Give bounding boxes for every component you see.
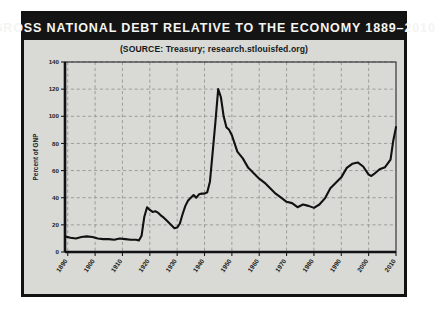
- y-axis-ticks: 020406080100120140: [49, 58, 65, 255]
- chart-figure: GROSS NATIONAL DEBT RELATIVE TO THE ECON…: [21, 11, 407, 297]
- x-tick-label: 1900: [82, 257, 96, 273]
- x-tick-label: 1920: [137, 257, 151, 273]
- y-tick-label: 60: [52, 167, 59, 174]
- line-chart-svg: 020406080100120140 189019001910192019301…: [24, 14, 404, 294]
- x-tick-label: 1990: [328, 257, 342, 273]
- x-tick-label: 1960: [246, 257, 260, 273]
- plot-area-wrapper: 020406080100120140 189019001910192019301…: [24, 14, 404, 294]
- x-tick-label: 1950: [219, 257, 233, 273]
- y-tick-label: 80: [52, 140, 59, 147]
- x-tick-label: 1890: [55, 257, 69, 273]
- grid-lines: [65, 62, 396, 252]
- y-tick-label: 120: [49, 85, 60, 92]
- x-tick-label: 2010: [383, 257, 397, 273]
- y-tick-label: 20: [52, 221, 59, 228]
- x-tick-label: 1980: [301, 257, 315, 273]
- x-tick-label: 1970: [274, 257, 288, 273]
- plot-frame: [65, 62, 396, 252]
- x-axis-ticks: 1890190019101920193019401950196019701980…: [55, 252, 397, 273]
- y-tick-label: 40: [52, 194, 59, 201]
- x-tick-label: 1910: [109, 257, 123, 273]
- y-axis-title: Percent of GNP: [32, 133, 39, 181]
- x-tick-label: 1930: [164, 257, 178, 273]
- debt-gnp-line: [65, 89, 396, 240]
- y-tick-label: 0: [56, 248, 60, 255]
- y-tick-label: 100: [49, 112, 60, 119]
- x-tick-label: 1940: [191, 257, 205, 273]
- y-tick-label: 140: [49, 58, 60, 65]
- x-tick-label: 2000: [356, 257, 370, 273]
